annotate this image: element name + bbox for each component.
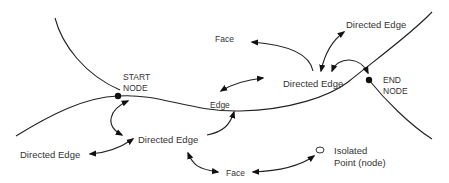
- start-node-dot: [115, 93, 121, 99]
- arrow-directed-edge-to-edge: [207, 112, 234, 135]
- start-node-label-line2: NODE: [123, 83, 148, 94]
- end-node-label-line2: NODE: [383, 86, 408, 97]
- main-edge-curve: [16, 12, 432, 136]
- arrow-left-directed-edge: [90, 139, 133, 154]
- isolated-point-circle: [316, 147, 324, 153]
- directed-edge-label-center: Directed Edge: [283, 78, 343, 89]
- arrow-directed-edge-to-face: [188, 153, 218, 172]
- arrow-start-to-directed-edge: [111, 101, 128, 135]
- isolated-point-label-line2: Point (node): [334, 157, 386, 168]
- arrow-edge-to-center-directed-edge: [221, 78, 263, 91]
- arrow-center-to-top-right-directed-edge: [321, 32, 344, 71]
- left-boundary-curve: [55, 18, 120, 90]
- arrow-center-to-top-face: [252, 42, 313, 71]
- end-node-label-line1: END: [383, 75, 401, 86]
- start-node-label-line1: START: [123, 72, 150, 83]
- arrow-face-to-isolated-point: [253, 156, 314, 172]
- face-label-bottom: Face: [226, 168, 245, 179]
- topology-diagram: START NODE END NODE Edge Face Face Direc…: [0, 0, 449, 183]
- edge-label: Edge: [210, 100, 230, 111]
- face-label-top: Face: [215, 34, 234, 45]
- directed-edge-label-top-right: Directed Edge: [346, 19, 406, 30]
- directed-edge-label-left: Directed Edge: [20, 149, 80, 160]
- directed-edge-label-lower-center: Directed Edge: [138, 134, 198, 145]
- end-node-dot: [366, 77, 372, 83]
- isolated-point-label-line1: Isolated: [334, 145, 367, 156]
